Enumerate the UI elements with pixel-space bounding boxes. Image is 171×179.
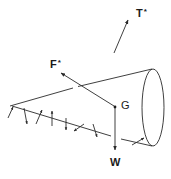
cone-top-edge-left (10, 88, 73, 106)
cone-base-ellipse (142, 69, 164, 146)
force-label: F* (50, 58, 62, 70)
small-arrow-icon (36, 110, 42, 124)
center-of-gravity-point (114, 106, 117, 109)
thrust-label: T* (136, 7, 148, 19)
thrust-arrow-icon (114, 20, 128, 53)
force-diagram: T* F* G W (0, 0, 171, 179)
cone-body (10, 69, 164, 146)
center-label: G (121, 99, 130, 111)
weight-label: W (110, 156, 121, 168)
cone-top-edge-right (78, 69, 152, 87)
small-arrow-icon (8, 107, 13, 118)
